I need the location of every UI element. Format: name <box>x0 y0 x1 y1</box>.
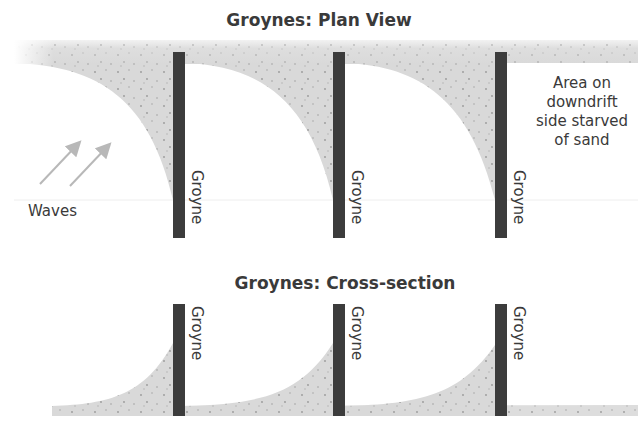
cross-groyne-label-2: Groyne <box>348 306 366 360</box>
svg-text:side starved: side starved <box>536 112 628 130</box>
cross-groyne-2 <box>333 304 345 416</box>
plan-groyne-1 <box>173 52 185 238</box>
cross-groyne-1 <box>173 304 185 416</box>
svg-text:downdrift: downdrift <box>546 93 617 111</box>
svg-text:Area on: Area on <box>553 74 611 92</box>
plan-groyne-label-3: Groyne <box>510 170 528 224</box>
cross-groyne-label-1: Groyne <box>188 306 206 360</box>
cross-section-title: Groynes: Cross-section <box>235 273 456 293</box>
plan-groyne-3 <box>495 52 507 238</box>
cross-groyne-3 <box>495 304 507 416</box>
wave-arrows-icon <box>40 146 106 186</box>
waves-label: Waves <box>28 202 77 220</box>
plan-groyne-label-2: Groyne <box>348 170 366 224</box>
groynes-diagram: Groynes: Plan View Groyne Groyne Groyne … <box>0 0 638 424</box>
plan-view-title: Groynes: Plan View <box>226 10 412 30</box>
cross-groyne-label-3: Groyne <box>510 306 528 360</box>
svg-text:of sand: of sand <box>554 131 609 149</box>
downdrift-annotation: Area on downdrift side starved of sand <box>536 74 628 149</box>
plan-groyne-2 <box>333 52 345 238</box>
plan-groyne-label-1: Groyne <box>188 170 206 224</box>
